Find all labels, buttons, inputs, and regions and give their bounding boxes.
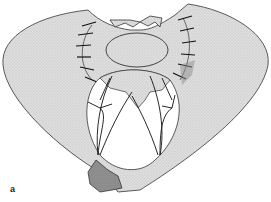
surgical-illustration xyxy=(0,0,271,202)
central-oval xyxy=(106,33,168,67)
top-flap xyxy=(110,16,162,27)
panel-label: a xyxy=(10,184,15,194)
